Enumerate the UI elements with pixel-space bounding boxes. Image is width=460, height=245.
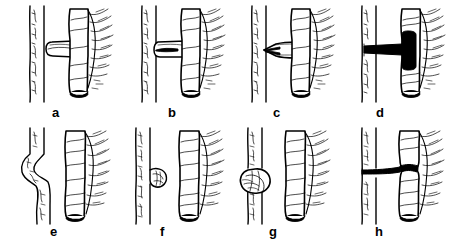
panel-label-h: h <box>375 225 383 238</box>
appendix-tube-a <box>69 9 89 97</box>
figure-root: a <box>0 0 460 245</box>
panel-label-c: c <box>273 106 280 119</box>
panel-label-f: f <box>160 225 164 238</box>
panel-label-e: e <box>50 225 57 238</box>
panel-f <box>118 126 230 226</box>
mesentery-hatching-g <box>305 131 330 214</box>
left-vessel-c <box>252 6 266 102</box>
panel-label-g: g <box>269 225 277 238</box>
side-branch-b <box>154 41 186 57</box>
panel-a-drawing <box>8 4 120 104</box>
mesentery-hatching-c <box>310 9 335 89</box>
appendix-tube-d <box>401 9 421 97</box>
appendix-tube-e <box>65 131 86 221</box>
panel-h <box>340 126 454 226</box>
panel-label-b: b <box>168 106 176 119</box>
panel-a <box>8 4 120 104</box>
panel-d-drawing <box>340 4 454 104</box>
appendix-tube-h <box>399 131 420 221</box>
mesentery-hatching-f <box>199 131 224 214</box>
mesentery-hatching-a <box>88 9 113 89</box>
mesentery-hatching-b <box>200 9 225 89</box>
panel-g <box>228 126 340 226</box>
left-vessel-h <box>362 128 376 224</box>
panel-h-drawing <box>340 126 454 226</box>
appendix-tube-f <box>179 131 200 221</box>
left-vessel-f <box>136 128 150 224</box>
panel-f-drawing <box>118 126 230 226</box>
mesentery-hatching-d <box>420 9 445 89</box>
panel-label-a: a <box>52 106 59 119</box>
panel-c-drawing <box>230 4 342 104</box>
appendix-tube-g <box>285 131 306 221</box>
panel-b <box>120 4 232 104</box>
left-vessel-b <box>142 6 156 102</box>
small-nodule-f <box>150 169 166 187</box>
constriction-band-h <box>400 165 418 173</box>
panel-g-drawing <box>228 126 340 226</box>
panel-c <box>230 4 342 104</box>
mesentery-hatching-h <box>419 131 444 214</box>
panel-label-d: d <box>376 106 384 119</box>
panel-b-drawing <box>120 4 232 104</box>
panel-d <box>340 4 454 104</box>
appendix-tube-c <box>291 9 311 97</box>
black-fistula-tract-d <box>364 44 402 56</box>
fibrous-cord-h <box>362 167 400 175</box>
large-nodule-g <box>240 169 270 193</box>
panel-e-drawing <box>8 126 120 226</box>
panel-e <box>8 126 120 226</box>
kinked-vessel-e <box>22 128 51 224</box>
mesentery-hatching-e <box>85 131 110 214</box>
left-vessel-a <box>30 6 44 102</box>
appendix-tube-b <box>181 9 201 97</box>
